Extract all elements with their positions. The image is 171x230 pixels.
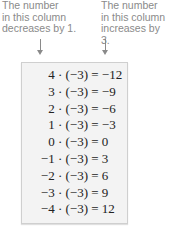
equation-lhs: −1 · (−3) [22, 151, 88, 168]
equation-lhs: 0 · (−3) [22, 134, 88, 151]
equation-rhs: = −6 [88, 101, 116, 118]
equation-rhs: = −9 [88, 84, 116, 101]
equation-rhs: = 9 [88, 185, 108, 202]
equation-row: −2 · (−3) = 6 [22, 168, 127, 185]
equation-rhs: = 0 [88, 134, 108, 151]
equation-rhs: = 3 [88, 151, 108, 168]
annotation-right-line: The number [101, 0, 171, 12]
equation-rhs: = 6 [88, 168, 108, 185]
equation-lhs: 2 · (−3) [22, 101, 88, 118]
equation-rhs: = −3 [88, 117, 116, 134]
equation-list: 4 · (−3) = −12 3 · (−3) = −9 2 · (−3) = … [22, 67, 127, 218]
down-arrow-icon [40, 39, 41, 51]
down-arrow-icon [105, 39, 106, 51]
equation-lhs: −4 · (−3) [22, 201, 88, 218]
equation-lhs: 1 · (−3) [22, 117, 88, 134]
equation-box: 4 · (−3) = −12 3 · (−3) = −9 2 · (−3) = … [21, 62, 128, 224]
equation-row: 1 · (−3) = −3 [22, 117, 127, 134]
annotation-left: The number in this column decreases by 1… [2, 0, 76, 35]
equation-lhs: −3 · (−3) [22, 185, 88, 202]
equation-lhs: −2 · (−3) [22, 168, 88, 185]
equation-lhs: 4 · (−3) [22, 67, 88, 84]
equation-row: 3 · (−3) = −9 [22, 84, 127, 101]
annotation-right: The number in this column increases by 3… [101, 0, 171, 46]
annotation-left-line: The number [2, 0, 76, 12]
annotation-left-line: decreases by 1. [2, 23, 76, 35]
equation-row: −1 · (−3) = 3 [22, 151, 127, 168]
equation-row: −4 · (−3) = 12 [22, 201, 127, 218]
equation-rhs: = 12 [88, 201, 115, 218]
equation-rhs: = −12 [88, 67, 122, 84]
equation-lhs: 3 · (−3) [22, 84, 88, 101]
equation-row: 4 · (−3) = −12 [22, 67, 127, 84]
annotation-right-line: increases by 3. [101, 23, 171, 46]
equation-row: 0 · (−3) = 0 [22, 134, 127, 151]
equation-row: 2 · (−3) = −6 [22, 101, 127, 118]
equation-row: −3 · (−3) = 9 [22, 185, 127, 202]
